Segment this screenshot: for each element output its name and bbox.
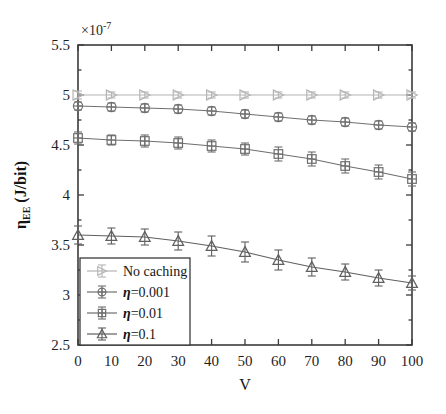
data-marker-circle-cross <box>73 101 82 110</box>
y-tick-label: 5 <box>63 87 71 103</box>
x-tick-label: 70 <box>304 353 319 369</box>
x-tick-label: 90 <box>371 353 386 369</box>
legend-label: No caching <box>123 264 187 279</box>
data-marker-circle-cross <box>174 104 183 113</box>
data-marker-circle-cross <box>107 102 116 111</box>
x-axis-title: V <box>239 376 251 393</box>
x-tick-label: 50 <box>238 353 253 369</box>
data-marker-circle-cross <box>240 109 249 118</box>
x-tick-label: 80 <box>338 353 353 369</box>
data-marker-circle-cross <box>274 112 283 121</box>
x-tick-label: 100 <box>401 353 424 369</box>
y-tick-label: 2.5 <box>51 337 70 353</box>
x-tick-label: 0 <box>74 353 82 369</box>
x-tick-label: 20 <box>137 353 152 369</box>
x-tick-label: 30 <box>171 353 186 369</box>
data-marker-circle-cross <box>341 117 350 126</box>
y-tick-label: 3.5 <box>51 237 70 253</box>
data-marker-circle-cross <box>98 288 106 296</box>
energy-efficiency-line-chart: ×10-7 2.533.544.555.5 010203040506070809… <box>0 0 446 414</box>
legend-item-0[interactable]: No caching <box>87 264 187 279</box>
y-tick-label: 4 <box>63 187 71 203</box>
data-marker-circle-cross <box>407 122 416 131</box>
chart-legend[interactable]: No cachingη=0.001η=0.01η=0.1 <box>80 258 190 345</box>
legend-label: η=0.001 <box>123 285 170 300</box>
y-tick-label: 3 <box>63 287 71 303</box>
legend-label: η=0.01 <box>123 306 163 321</box>
data-marker-circle-cross <box>307 115 316 124</box>
data-marker-circle-cross <box>140 103 149 112</box>
legend-label: η=0.1 <box>123 327 156 342</box>
y-tick-label: 5.5 <box>51 37 70 53</box>
x-tick-label: 60 <box>271 353 286 369</box>
x-tick-label: 10 <box>104 353 119 369</box>
data-marker-circle-cross <box>374 120 383 129</box>
y-tick-label: 4.5 <box>51 137 70 153</box>
x-axis-title-text: V <box>239 376 251 393</box>
chart-figure: ×10-7 2.533.544.555.5 010203040506070809… <box>0 0 446 414</box>
data-marker-circle-cross <box>207 106 216 115</box>
x-tick-label: 40 <box>204 353 219 369</box>
